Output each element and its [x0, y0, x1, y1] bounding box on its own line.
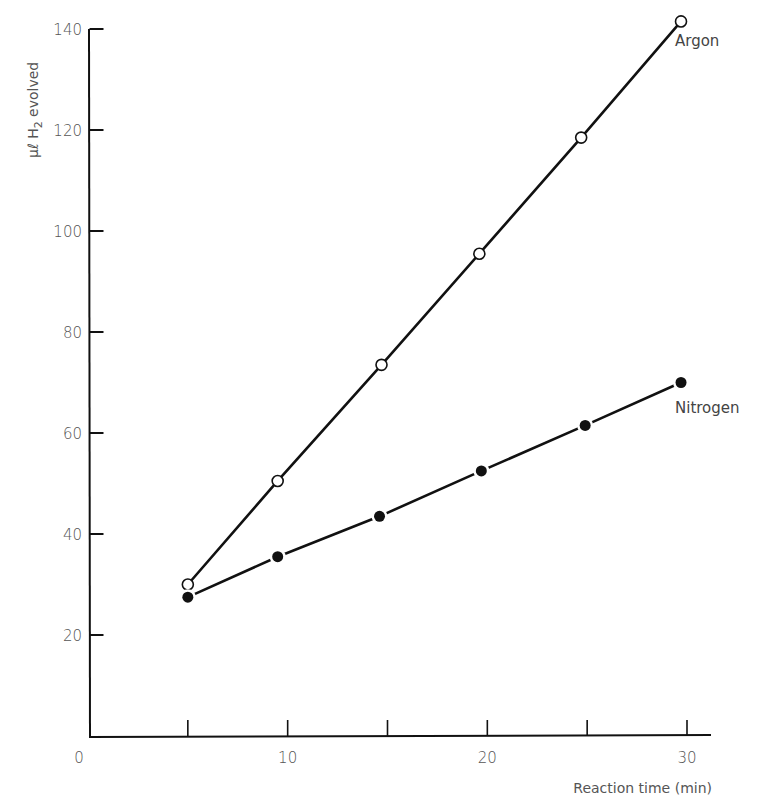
y-tick-label: 60 — [63, 425, 82, 443]
y-tick-label: 40 — [63, 526, 82, 544]
x-tick-label: 10 — [278, 749, 297, 767]
series-label-argon: Argon — [675, 32, 719, 50]
open-circle-marker — [376, 359, 387, 370]
y-tick-label: 80 — [63, 324, 82, 342]
x-tick-label: 30 — [677, 749, 696, 767]
y-tick-label: 120 — [53, 122, 82, 140]
series-layer — [180, 16, 689, 605]
line-chart: 204060801001201401020300Reaction time (m… — [0, 0, 766, 806]
open-circle-marker — [182, 579, 193, 590]
y-axis-title: μℓ H2 evolved — [25, 62, 45, 158]
y-tick-label: 140 — [53, 21, 82, 39]
series-line-nitrogen — [188, 383, 681, 598]
series-label-nitrogen: Nitrogen — [675, 399, 740, 417]
filled-circle-marker — [676, 377, 687, 388]
labels-layer: 204060801001201401020300Reaction time (m… — [25, 21, 740, 796]
y-tick-label: 100 — [53, 223, 82, 241]
x-axis-line — [89, 735, 711, 737]
filled-circle-marker — [580, 420, 591, 431]
open-circle-marker — [676, 16, 687, 27]
filled-circle-marker — [182, 592, 193, 603]
origin-label: 0 — [74, 749, 84, 767]
filled-circle-marker — [272, 551, 283, 562]
series-line-argon — [188, 21, 681, 584]
axes — [89, 29, 711, 737]
y-tick-label: 20 — [63, 627, 82, 645]
open-circle-marker — [474, 248, 485, 259]
open-circle-marker — [272, 475, 283, 486]
x-tick-label: 20 — [478, 749, 497, 767]
filled-circle-marker — [476, 465, 487, 476]
y-axis-line — [89, 29, 90, 737]
open-circle-marker — [576, 132, 587, 143]
filled-circle-marker — [374, 511, 385, 522]
x-axis-title: Reaction time (min) — [573, 780, 712, 796]
